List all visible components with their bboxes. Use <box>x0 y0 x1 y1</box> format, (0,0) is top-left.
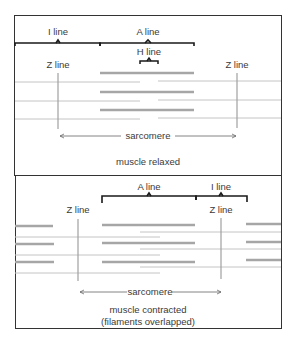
caption-contracted-line2: (filaments overlapped) <box>101 316 195 328</box>
a-line-label-relaxed: A line <box>136 27 159 37</box>
sarcomere-label-contracted: sarcomere <box>128 287 173 297</box>
h-line-bracket-relaxed <box>140 58 158 64</box>
caption-contracted-line1: muscle contracted <box>109 304 186 316</box>
a-line-bracket-contracted <box>102 193 196 203</box>
i-line-label-contracted: I line <box>211 182 231 192</box>
z-line-label-right-relaxed: Z line <box>225 60 248 70</box>
thick-filaments-contracted <box>15 224 281 262</box>
a-line-label-contracted: A line <box>137 182 160 192</box>
i-line-bracket-contracted <box>196 193 247 202</box>
z-line-label-right-contracted: Z line <box>209 205 232 215</box>
i-line-label-relaxed: I line <box>48 27 68 37</box>
z-line-label-left-relaxed: Z line <box>46 60 69 70</box>
thick-filaments-relaxed <box>100 73 194 110</box>
caption-relaxed: muscle relaxed <box>116 156 180 168</box>
z-line-label-left-contracted: Z line <box>66 205 89 215</box>
i-line-bracket-relaxed <box>15 40 100 46</box>
h-line-label-relaxed: H line <box>137 47 161 57</box>
thin-filaments-relaxed <box>15 81 281 119</box>
sarcomere-label-relaxed: sarcomere <box>126 131 171 141</box>
thin-filaments-contracted <box>15 232 281 273</box>
